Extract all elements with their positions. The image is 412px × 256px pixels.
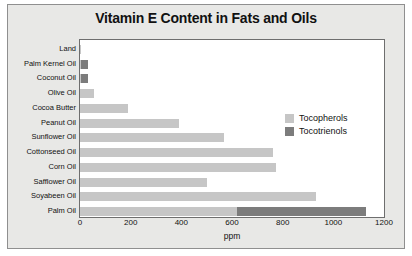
category-label: Olive Oil <box>48 88 76 97</box>
bar-row <box>80 119 179 128</box>
x-tick-label: 0 <box>78 218 82 227</box>
x-axis-label: ppm <box>79 231 385 241</box>
chart-legend: TocopherolsTocotrienols <box>285 113 348 139</box>
category-label: Coconut Oil <box>37 73 76 82</box>
category-label: Soyabeen Oil <box>31 191 76 200</box>
bar-row <box>80 148 273 157</box>
x-tick-label: 800 <box>276 218 289 227</box>
bar-segment-tocopherols <box>80 207 237 216</box>
bar-segment-tocotrienols <box>81 74 87 83</box>
bar-segment-tocopherols <box>80 148 273 157</box>
bar-segment-tocopherols <box>80 104 128 113</box>
bar-segment-tocopherols <box>80 192 316 201</box>
legend-swatch <box>285 114 294 123</box>
legend-swatch <box>285 127 294 136</box>
bar-row <box>80 133 224 142</box>
chart-title: Vitamin E Content in Fats and Oils <box>8 10 404 26</box>
chart-frame: Vitamin E Content in Fats and Oils LandP… <box>7 4 405 249</box>
chart-figure: Vitamin E Content in Fats and Oils LandP… <box>0 0 412 256</box>
legend-entry: Tocotrienols <box>285 126 348 138</box>
bar-segment-tocopherols <box>80 45 81 54</box>
bar-segment-tocopherols <box>80 119 179 128</box>
bar-row <box>80 192 316 201</box>
bar-row <box>80 45 81 54</box>
category-label: Palm Kernel Oil <box>24 59 76 68</box>
category-label: Cocoa Butter <box>32 103 76 112</box>
plot-area: TocopherolsTocotrienols <box>79 39 385 218</box>
x-tick-label: 1000 <box>324 218 342 227</box>
category-label: Peanut Oil <box>41 118 76 127</box>
x-axis-ticks: 020040060080010001200 <box>79 218 385 232</box>
category-label: Sunflower Oil <box>31 132 76 141</box>
legend-label: Tocotrienols <box>299 126 347 136</box>
bar-row <box>80 104 128 113</box>
bar-row <box>80 178 207 187</box>
bar-segment-tocopherols <box>80 133 224 142</box>
x-tick-label: 200 <box>124 218 137 227</box>
legend-entry: Tocopherols <box>285 113 348 125</box>
legend-label: Tocopherols <box>299 113 348 123</box>
bar-row <box>80 89 94 98</box>
bar-row <box>80 163 276 172</box>
bar-row <box>80 60 88 69</box>
bar-segment-tocopherols <box>80 178 207 187</box>
x-tick-label: 400 <box>175 218 188 227</box>
bar-segment-tocopherols <box>80 163 276 172</box>
bar-segment-tocopherols <box>80 89 94 98</box>
x-tick-label: 600 <box>225 218 238 227</box>
category-label: Corn Oil <box>48 162 76 171</box>
x-tick-label: 1200 <box>375 218 393 227</box>
bar-row <box>80 74 88 83</box>
category-label: Land <box>59 44 76 53</box>
category-label: Safflower Oil <box>34 177 76 186</box>
category-label: Cottonseed Oil <box>26 147 76 156</box>
bar-row <box>80 207 366 216</box>
category-label: Palm Oil <box>48 206 76 215</box>
bar-segment-tocotrienols <box>237 207 366 216</box>
category-axis-labels: LandPalm Kernel OilCoconut OilOlive OilC… <box>12 39 76 216</box>
bar-segment-tocotrienols <box>81 60 87 69</box>
